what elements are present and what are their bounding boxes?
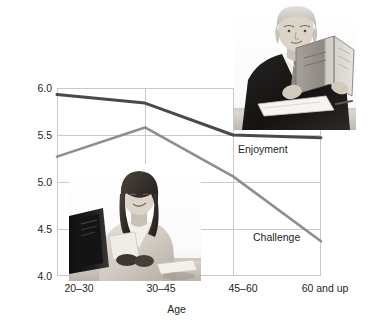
x-axis-title: Age xyxy=(0,303,369,315)
photo-senior-man-reading xyxy=(234,4,356,130)
chart-figure: 6.0 5.5 5.0 4.5 4.0 xyxy=(0,0,369,331)
y-axis-labels: 6.0 5.5 5.0 4.5 4.0 xyxy=(16,88,52,276)
x-tick-label: 45–60 xyxy=(228,283,257,294)
x-tick-label: 60 and up xyxy=(302,283,349,294)
series-label-challenge: Challenge xyxy=(253,232,300,243)
y-tick-label: 4.5 xyxy=(18,224,52,235)
x-axis-labels: 20–30 30–45 45–60 60 and up xyxy=(0,283,369,299)
y-tick-label: 5.0 xyxy=(18,177,52,188)
y-tick-label: 4.0 xyxy=(18,271,52,282)
x-tick-label: 20–30 xyxy=(64,283,93,294)
series-label-enjoyment: Enjoyment xyxy=(238,144,288,155)
gridline-horizontal xyxy=(58,135,320,136)
x-tick-label: 30–45 xyxy=(146,283,175,294)
photo-woman-at-computer xyxy=(69,164,201,281)
y-tick-label: 5.5 xyxy=(18,130,52,141)
x-axis-title-text: Age xyxy=(167,303,186,315)
y-tick-label: 6.0 xyxy=(18,83,52,94)
